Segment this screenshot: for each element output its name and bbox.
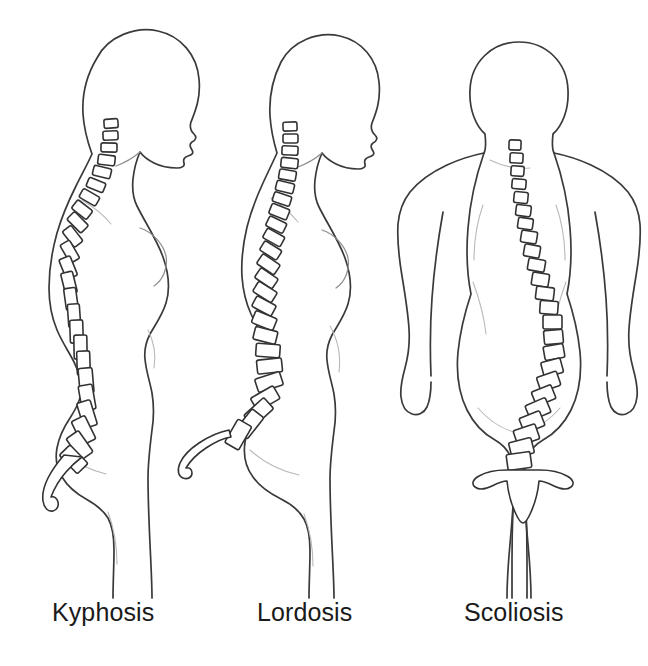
vertebra-c3: [511, 166, 525, 177]
vertebra-t4: [531, 272, 550, 287]
vertebra-t8: [543, 329, 563, 345]
caption-kyphosis: Kyphosis: [52, 598, 154, 627]
vertebra-c1: [509, 140, 521, 150]
vertebra-t11: [256, 343, 281, 358]
vertebra-c3: [282, 146, 298, 156]
vertebra-c1: [104, 119, 119, 129]
vertebra-c7: [517, 217, 533, 230]
illustration-canvas: [0, 0, 648, 666]
vertebra-t1: [520, 230, 538, 244]
vertebra-t6: [540, 300, 559, 314]
caption-scoliosis: Scoliosis: [464, 598, 564, 627]
vertebra-t2: [523, 244, 541, 259]
vertebra-c2: [510, 153, 524, 164]
vertebra-c3: [101, 143, 117, 152]
vertebra-t7: [543, 315, 562, 329]
vertebra-c1: [283, 122, 297, 131]
vertebra-c5: [513, 191, 528, 203]
spinal-conditions-illustration: Kyphosis Lordosis Scoliosis: [0, 0, 648, 666]
vertebra-l5: [506, 451, 532, 470]
vertebra-c5: [278, 169, 296, 182]
vertebra-c2: [103, 131, 118, 141]
vertebra-t5: [535, 286, 554, 301]
vertebra-c6: [515, 204, 531, 217]
caption-row: Kyphosis Lordosis Scoliosis: [0, 598, 648, 648]
caption-lordosis: Lordosis: [257, 598, 352, 627]
vertebra-t9: [543, 343, 565, 360]
vertebra-c4: [97, 154, 115, 166]
vertebra-t3: [527, 258, 546, 273]
vertebra-c2: [283, 134, 298, 143]
vertebra-c4: [281, 157, 299, 169]
vertebra-c4: [512, 178, 527, 189]
